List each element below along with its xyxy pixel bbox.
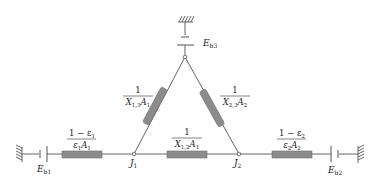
- svg-text:X1,3A1: X1,3A1: [125, 97, 150, 108]
- label-eb2: Eb2: [327, 165, 342, 176]
- source-eb2-symbol: [331, 146, 339, 162]
- ground-icon-top: [178, 16, 194, 22]
- label-j2: J2: [232, 158, 242, 169]
- label-eb3: Eb3: [202, 38, 217, 49]
- svg-text:1: 1: [232, 85, 237, 95]
- source-eb1-symbol: [39, 146, 47, 162]
- label-surface1-resistance: 1 − ε1 ε1A1: [67, 128, 96, 151]
- radiation-network-diagram: Eb3 Eb1 Eb2 J1 J2 1 − ε1 ε1A1 1 X1,2A1 1…: [0, 0, 371, 183]
- ground-icon-left: [16, 145, 22, 162]
- svg-text:ε2A2: ε2A2: [283, 140, 301, 151]
- resistor-space23: [199, 89, 225, 127]
- svg-text:1 − ε1: 1 − ε1: [69, 128, 95, 139]
- ground-icon-right: [358, 145, 364, 163]
- node-j1: [132, 152, 136, 156]
- svg-text:1: 1: [135, 85, 140, 95]
- resistor-surface2: [272, 151, 312, 158]
- node-top: [183, 55, 187, 59]
- label-eb1: Eb1: [36, 164, 51, 175]
- label-j1: J1: [128, 158, 137, 169]
- svg-text:ε1A1: ε1A1: [73, 140, 91, 151]
- resistor-surface1: [62, 151, 102, 158]
- label-space23-resistance: 1 X2,3A2: [220, 85, 250, 108]
- svg-text:X2,3A2: X2,3A2: [222, 97, 247, 108]
- svg-text:1 − ε2: 1 − ε2: [279, 128, 305, 139]
- svg-text:1: 1: [184, 127, 189, 137]
- label-surface2-resistance: 1 − ε2 ε2A2: [277, 128, 306, 151]
- label-space12-resistance: 1 X1,2A1: [172, 127, 202, 150]
- label-space13-resistance: 1 X1,3A1: [123, 85, 153, 108]
- resistor-space12: [167, 151, 207, 158]
- source-eb3-symbol: [177, 35, 194, 45]
- svg-text:X1,2A1: X1,2A1: [174, 139, 199, 150]
- node-j2: [237, 152, 241, 156]
